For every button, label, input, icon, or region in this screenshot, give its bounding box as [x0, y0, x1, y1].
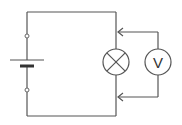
terminal-bottom	[25, 88, 29, 92]
lamp-symbol	[103, 49, 129, 75]
circuit-diagram: V	[0, 0, 182, 125]
battery-symbol	[10, 60, 44, 66]
terminal-top	[25, 34, 29, 38]
voltmeter-label: V	[153, 54, 163, 71]
voltmeter-symbol: V	[145, 49, 171, 75]
